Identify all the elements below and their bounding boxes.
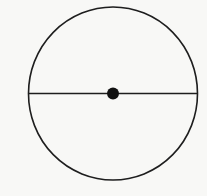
circle-diagram [0, 0, 207, 196]
center-point [107, 88, 119, 100]
